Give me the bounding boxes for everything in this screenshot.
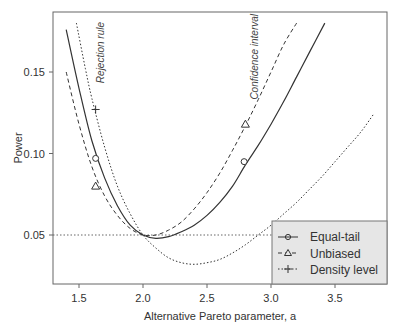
y-tick-label: 0.10 (24, 148, 45, 160)
y-axis: 0.050.100.15 (24, 66, 53, 241)
x-axis: 1.52.02.53.03.5 (71, 284, 342, 304)
y-tick-label: 0.15 (24, 66, 45, 78)
legend-label: Unbiased (310, 247, 361, 261)
power-curve-chart: 0.050.100.15 1.52.02.53.03.5 Power Alter… (0, 0, 396, 329)
y-axis-title: Power (12, 132, 24, 164)
annotation-rejection-rule: Rejection rule (95, 22, 106, 84)
x-tick-label: 2.0 (135, 292, 150, 304)
x-tick-label: 2.5 (199, 292, 214, 304)
y-tick-label: 0.05 (24, 229, 45, 241)
legend-label: Density level (310, 263, 378, 277)
annotation-confidence-interval: Confidence interval (249, 13, 260, 99)
legend: Equal-tail Unbiased Density level (272, 221, 387, 284)
x-tick-label: 3.0 (263, 292, 278, 304)
x-tick-label: 1.5 (71, 292, 86, 304)
legend-label: Equal-tail (310, 230, 360, 244)
triangle-marker-icon (241, 120, 249, 127)
x-axis-title: Alternative Pareto parameter, a (144, 310, 297, 322)
circle-marker-icon (241, 159, 247, 165)
x-tick-label: 3.5 (327, 292, 342, 304)
circle-marker-icon (93, 155, 99, 161)
plus-marker-icon (92, 105, 100, 113)
